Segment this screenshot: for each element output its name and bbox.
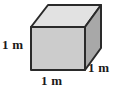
cube-front-face	[31, 27, 85, 70]
cube-figure: 1 m 1 m 1 m	[0, 0, 116, 92]
width-dimension-label: 1 m	[41, 74, 62, 87]
height-dimension-label: 1 m	[2, 38, 23, 51]
depth-dimension-label: 1 m	[88, 61, 109, 74]
